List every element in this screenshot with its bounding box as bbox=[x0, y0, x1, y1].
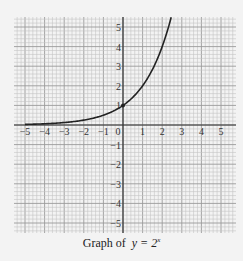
y-tick-label: −2 bbox=[110, 159, 121, 170]
y-tick-label: 3 bbox=[116, 61, 121, 72]
curve-y-2-pow-x bbox=[25, 17, 171, 124]
y-tick-label: −5 bbox=[110, 218, 121, 229]
x-tick-label: 0 bbox=[116, 126, 121, 137]
y-tick-label: −1 bbox=[110, 140, 121, 151]
axes bbox=[14, 17, 236, 233]
point-0-1 bbox=[121, 103, 125, 107]
x-tick-label: −5 bbox=[20, 126, 31, 137]
exponential-graph: −5−4−3−2−101234554321−1−2−3−4−5 bbox=[0, 0, 243, 236]
y-tick-label: 2 bbox=[116, 81, 121, 92]
x-tick-label: 5 bbox=[219, 126, 224, 137]
caption-prefix: Graph of bbox=[83, 236, 126, 250]
x-tick-label: −3 bbox=[59, 126, 70, 137]
y-tick-label: −4 bbox=[110, 198, 121, 209]
x-tick-label: 3 bbox=[179, 126, 184, 137]
graph-caption: Graph of y = 2x bbox=[0, 236, 243, 251]
y-tick-label: 5 bbox=[116, 22, 121, 33]
x-tick-label: −2 bbox=[78, 126, 89, 137]
caption-exponent: x bbox=[157, 236, 160, 244]
x-tick-label: 4 bbox=[199, 126, 204, 137]
y-tick-label: 4 bbox=[116, 42, 121, 53]
caption-equation: y = 2 bbox=[132, 236, 157, 250]
y-tick-label: −3 bbox=[110, 179, 121, 190]
x-tick-label: −4 bbox=[39, 126, 50, 137]
x-tick-label: −1 bbox=[98, 126, 109, 137]
x-tick-label: 1 bbox=[140, 126, 145, 137]
x-tick-label: 2 bbox=[160, 126, 165, 137]
